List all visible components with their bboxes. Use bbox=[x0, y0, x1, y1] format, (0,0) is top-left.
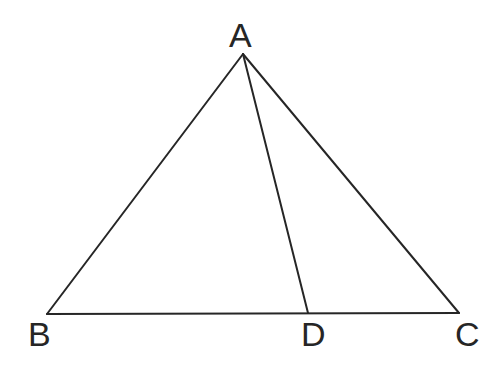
vertex-label-b: B bbox=[28, 317, 51, 351]
triangle-diagram bbox=[0, 0, 503, 369]
segment-ab bbox=[47, 54, 243, 314]
segment-bc bbox=[47, 313, 459, 314]
vertex-label-a: A bbox=[229, 18, 252, 52]
vertex-label-d: D bbox=[301, 317, 326, 351]
geometry-figure: A B D C bbox=[0, 0, 503, 369]
vertex-label-c: C bbox=[455, 317, 480, 351]
